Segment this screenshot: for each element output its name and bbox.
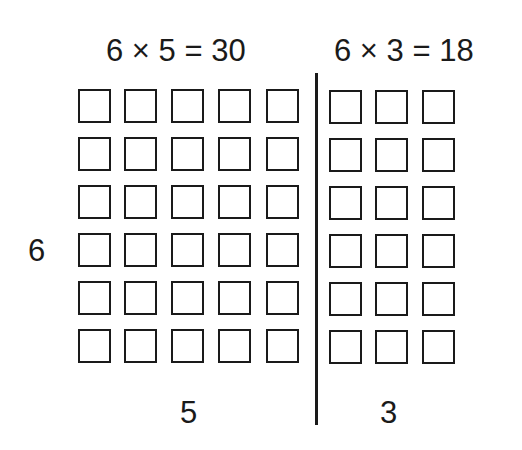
right-square	[422, 90, 455, 124]
left-square	[124, 137, 157, 171]
left-square	[78, 185, 111, 219]
left-square	[171, 89, 204, 123]
right-equation: 6 × 3 = 18	[334, 31, 474, 71]
left-square	[124, 89, 157, 123]
left-square	[218, 185, 251, 219]
left-square	[266, 233, 299, 267]
left-square	[78, 89, 111, 123]
left-square	[78, 281, 111, 315]
right-square	[375, 282, 408, 316]
left-square	[171, 329, 204, 363]
left-square	[124, 233, 157, 267]
left-column-count-label: 5	[180, 396, 197, 430]
left-square	[124, 329, 157, 363]
left-square	[171, 233, 204, 267]
left-square	[266, 185, 299, 219]
right-square	[329, 186, 362, 220]
left-square	[78, 329, 111, 363]
right-square	[329, 90, 362, 124]
left-square	[78, 137, 111, 171]
left-square	[266, 137, 299, 171]
right-square	[422, 234, 455, 268]
left-square	[266, 329, 299, 363]
left-square	[124, 281, 157, 315]
left-square	[171, 137, 204, 171]
left-square	[171, 185, 204, 219]
left-square	[78, 233, 111, 267]
left-square	[218, 89, 251, 123]
left-equation: 6 × 5 = 30	[106, 31, 246, 71]
left-square	[218, 281, 251, 315]
left-square	[218, 329, 251, 363]
right-square	[375, 138, 408, 172]
right-square	[329, 330, 362, 364]
right-square	[422, 330, 455, 364]
right-square	[375, 330, 408, 364]
right-square	[422, 186, 455, 220]
right-square	[329, 138, 362, 172]
right-square	[422, 138, 455, 172]
right-square	[329, 234, 362, 268]
row-count-label: 6	[28, 234, 45, 268]
right-square	[375, 90, 408, 124]
left-square	[266, 89, 299, 123]
left-square	[218, 137, 251, 171]
right-square	[375, 186, 408, 220]
left-square	[266, 281, 299, 315]
right-square	[329, 282, 362, 316]
left-square	[124, 185, 157, 219]
right-column-count-label: 3	[380, 396, 397, 430]
left-square	[218, 233, 251, 267]
left-square	[171, 281, 204, 315]
divider-line	[315, 73, 318, 425]
right-square	[422, 282, 455, 316]
right-square	[375, 234, 408, 268]
